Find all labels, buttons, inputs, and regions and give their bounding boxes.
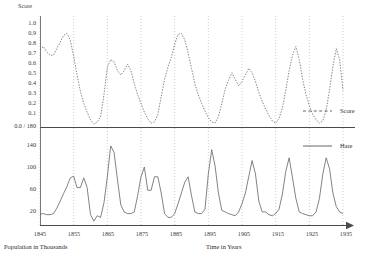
score-series-group: [40, 33, 343, 124]
chart-root: Score 1.0 0.9 0.8 0.7 0.6 0.5 0.4 0.3 0.…: [0, 0, 365, 261]
x-axis-arrowhead: [346, 222, 354, 229]
chart-canvas: [0, 0, 365, 261]
hare-series-group: [40, 146, 343, 221]
hare-series-line: [40, 146, 343, 221]
score-series-line: [40, 33, 343, 124]
